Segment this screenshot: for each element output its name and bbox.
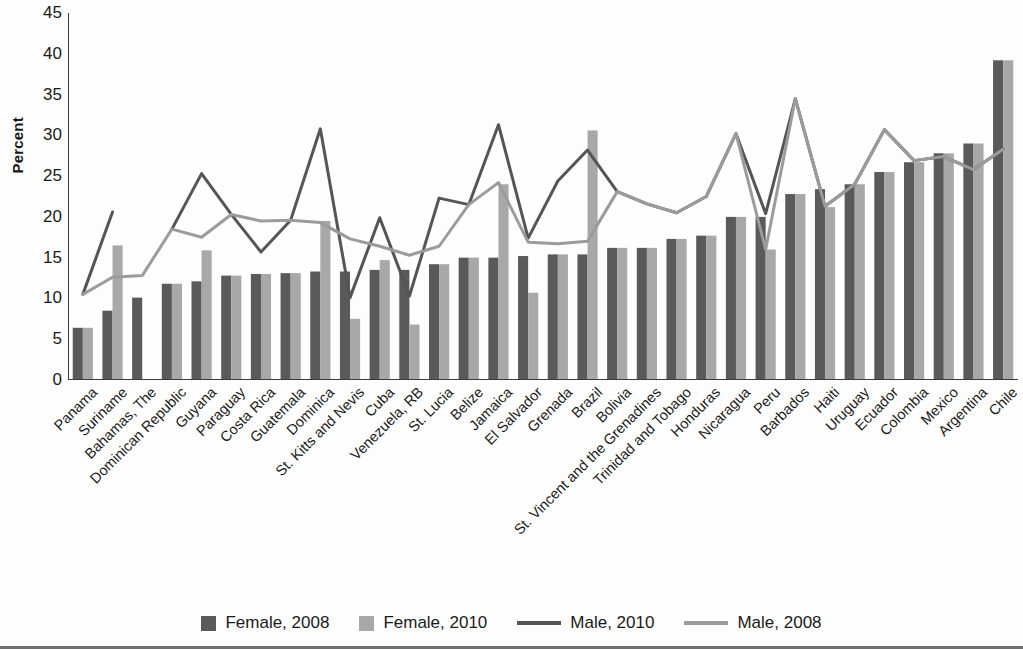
bar-female-2008 bbox=[102, 311, 112, 380]
bar-female-2010 bbox=[884, 172, 894, 380]
legend-item[interactable]: Male, 2010 bbox=[517, 613, 654, 633]
bar-female-2010 bbox=[231, 276, 241, 380]
bar-female-2008 bbox=[221, 276, 231, 380]
legend-item[interactable]: Female, 2008 bbox=[201, 613, 329, 633]
bar-female-2008 bbox=[429, 264, 439, 380]
bar-female-2008 bbox=[726, 217, 736, 380]
legend-item[interactable]: Male, 2008 bbox=[684, 613, 821, 633]
bar-female-2008 bbox=[310, 272, 320, 380]
bar-female-2008 bbox=[548, 254, 558, 380]
legend-swatch-line-icon bbox=[684, 621, 728, 625]
legend-swatch-line-icon bbox=[517, 621, 561, 625]
bar-female-2008 bbox=[281, 273, 291, 380]
bar-female-2008 bbox=[934, 153, 944, 380]
legend-item[interactable]: Female, 2010 bbox=[359, 613, 487, 633]
bar-female-2008 bbox=[874, 172, 884, 380]
bar-female-2010 bbox=[202, 250, 212, 380]
bar-female-2008 bbox=[251, 274, 261, 380]
bar-female-2010 bbox=[825, 207, 835, 380]
y-tick-label: 0 bbox=[28, 371, 62, 388]
bar-female-2010 bbox=[172, 284, 182, 380]
plot-svg bbox=[68, 13, 1018, 380]
bar-female-2010 bbox=[261, 274, 271, 380]
y-tick-label: 40 bbox=[28, 45, 62, 62]
bar-female-2008 bbox=[845, 184, 855, 380]
bar-female-2008 bbox=[667, 239, 677, 380]
bar-female-2010 bbox=[558, 254, 568, 380]
bar-female-2008 bbox=[192, 281, 202, 380]
x-axis-tick-labels: PanamaSurinameBahamas, TheDominican Repu… bbox=[68, 384, 1018, 594]
bar-female-2008 bbox=[696, 236, 706, 380]
bar-female-2010 bbox=[113, 245, 123, 380]
bar-female-2010 bbox=[706, 236, 716, 380]
line-male-2008 bbox=[83, 99, 1003, 295]
bar-female-2010 bbox=[944, 153, 954, 380]
bar-female-2010 bbox=[528, 293, 538, 380]
legend-swatch-square-icon bbox=[201, 616, 216, 631]
bar-female-2008 bbox=[963, 143, 973, 380]
bar-female-2008 bbox=[577, 254, 587, 380]
legend-swatch-square-icon bbox=[359, 616, 374, 631]
bar-female-2008 bbox=[132, 298, 142, 380]
bar-female-2010 bbox=[914, 162, 924, 380]
y-axis-tick-labels: 051015202530354045 bbox=[22, 0, 62, 394]
y-tick-label: 30 bbox=[28, 126, 62, 143]
legend-label: Female, 2008 bbox=[225, 613, 329, 633]
bar-female-2010 bbox=[380, 260, 390, 380]
bar-female-2010 bbox=[795, 194, 805, 380]
plot-area bbox=[68, 13, 1018, 380]
bar-female-2010 bbox=[409, 325, 419, 380]
bar-female-2008 bbox=[904, 162, 914, 380]
legend-label: Female, 2010 bbox=[383, 613, 487, 633]
bar-female-2010 bbox=[469, 258, 479, 380]
legend-label: Male, 2008 bbox=[737, 613, 821, 633]
legend-label: Male, 2010 bbox=[570, 613, 654, 633]
bar-female-2008 bbox=[993, 60, 1003, 380]
bar-female-2010 bbox=[320, 221, 330, 380]
bar-female-2010 bbox=[617, 248, 627, 380]
bar-female-2008 bbox=[459, 258, 469, 380]
bar-female-2010 bbox=[291, 273, 301, 380]
bar-female-2010 bbox=[855, 184, 865, 380]
bar-female-2010 bbox=[973, 143, 983, 380]
y-tick-label: 5 bbox=[28, 330, 62, 347]
bar-female-2010 bbox=[677, 239, 687, 380]
bar-female-2008 bbox=[370, 270, 380, 380]
y-tick-label: 45 bbox=[28, 4, 62, 21]
y-tick-label: 35 bbox=[28, 86, 62, 103]
bar-female-2008 bbox=[815, 189, 825, 380]
x-tick-label: Chile bbox=[986, 384, 1021, 419]
bar-female-2010 bbox=[350, 319, 360, 380]
chart-legend: Female, 2008Female, 2010Male, 2010Male, … bbox=[0, 613, 1023, 633]
bar-female-2010 bbox=[588, 130, 598, 380]
bar-female-2008 bbox=[73, 328, 83, 380]
bar-female-2008 bbox=[518, 256, 528, 380]
bar-female-2008 bbox=[488, 258, 498, 380]
bar-female-2008 bbox=[637, 248, 647, 380]
bar-female-2010 bbox=[439, 264, 449, 380]
y-tick-label: 20 bbox=[28, 208, 62, 225]
line-male-2010 bbox=[83, 212, 113, 294]
bar-female-2010 bbox=[736, 217, 746, 380]
bar-female-2008 bbox=[162, 284, 172, 380]
y-tick-label: 25 bbox=[28, 167, 62, 184]
y-tick-label: 10 bbox=[28, 289, 62, 306]
bar-female-2010 bbox=[1003, 60, 1013, 380]
bar-female-2010 bbox=[647, 248, 657, 380]
bar-female-2008 bbox=[785, 194, 795, 380]
bar-female-2010 bbox=[498, 184, 508, 380]
bar-female-2010 bbox=[83, 328, 93, 380]
y-tick-label: 15 bbox=[28, 249, 62, 266]
bar-female-2008 bbox=[607, 248, 617, 380]
chart-figure: Percent 051015202530354045 PanamaSurinam… bbox=[0, 0, 1023, 649]
bar-female-2010 bbox=[766, 250, 776, 380]
x-tick-label-text: Chile bbox=[986, 384, 1021, 419]
